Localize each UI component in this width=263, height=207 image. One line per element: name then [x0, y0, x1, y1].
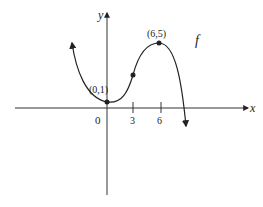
- tick-label-6: 6: [157, 115, 162, 126]
- point-min-label: (0,1): [89, 84, 108, 96]
- point-inflection: [131, 73, 136, 78]
- x-axis-label: x: [249, 101, 256, 115]
- function-graph: y x f (0,1) (6,5) 0 3 6: [0, 0, 263, 207]
- point-max-label: (6,5): [147, 28, 166, 40]
- y-axis-label: y: [97, 8, 104, 22]
- point-max: [157, 41, 162, 46]
- point-min: [105, 100, 110, 105]
- tick-label-3: 3: [130, 115, 135, 126]
- tick-label-0: 0: [95, 114, 101, 126]
- function-label: f: [195, 33, 201, 48]
